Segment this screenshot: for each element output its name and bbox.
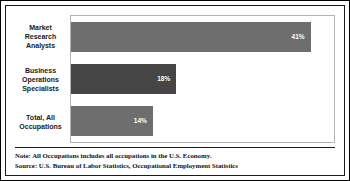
bar-value-label: 41% — [292, 33, 311, 41]
footnote-note: Note: All Occupations includes all occup… — [15, 151, 335, 161]
bar-value-label: 18% — [157, 75, 176, 83]
axis-label-text: Total, All Occupations — [19, 113, 61, 131]
axis-label-text: Market Research Analysts — [25, 23, 57, 50]
footnote-source: Source: U.S. Bureau of Labor Statistics,… — [15, 161, 335, 171]
bar-value-label: 14% — [134, 117, 153, 125]
chart-plot-area: Market Research Analysts Business Operat… — [15, 15, 335, 143]
figure-inner-frame: Market Research Analysts Business Operat… — [5, 5, 345, 176]
axis-label-line: Specialists — [22, 85, 59, 92]
plot-box: 41% 18% 14% — [70, 15, 335, 143]
axis-label-text: Business Operations Specialists — [22, 66, 59, 93]
axis-label-line: Occupations — [19, 123, 61, 130]
axis-label-total-all-occupations: Total, All Occupations — [15, 100, 70, 143]
axis-label-line: Analysts — [26, 42, 55, 49]
bar-row: 18% — [71, 58, 334, 100]
bar-market-research-analysts: 41% — [71, 22, 311, 52]
axis-label-line: Business — [25, 67, 56, 74]
bar-business-operations-specialists: 18% — [71, 64, 176, 94]
footnote-divider — [15, 147, 335, 148]
bar-row: 14% — [71, 100, 334, 142]
axis-label-line: Market — [29, 24, 52, 31]
bar-total-all-occupations: 14% — [71, 106, 153, 136]
category-axis: Market Research Analysts Business Operat… — [15, 15, 70, 143]
axis-label-line: Research — [25, 33, 57, 40]
axis-label-market-research-analysts: Market Research Analysts — [15, 15, 70, 58]
footnotes: Note: All Occupations includes all occup… — [15, 147, 335, 170]
axis-label-line: Total, All — [26, 114, 55, 121]
chart-figure: Market Research Analysts Business Operat… — [0, 0, 350, 181]
axis-label-business-operations-specialists: Business Operations Specialists — [15, 58, 70, 101]
bar-row: 41% — [71, 16, 334, 58]
axis-label-line: Operations — [22, 76, 59, 83]
